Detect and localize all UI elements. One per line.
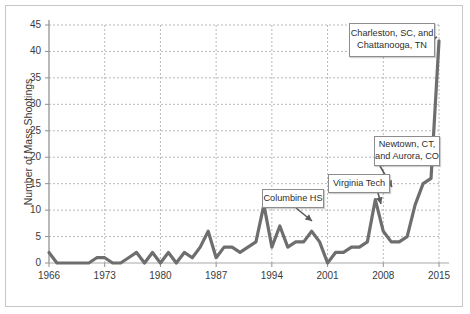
chart-frame: Number of Mass Shootings 051015202530354…	[5, 5, 463, 307]
annotation-label-line1: Charleston, SC, and	[351, 28, 434, 40]
annotation-virginia-tech: Virginia Tech	[328, 174, 390, 193]
annotation-label-line1: Virginia Tech	[333, 178, 385, 190]
annotation-label-line1: Columbine HS	[263, 193, 322, 205]
annotation-label-line2: and Aurora, CO	[375, 151, 439, 163]
chart-container: Number of Mass Shootings 051015202530354…	[0, 0, 470, 314]
annotation-columbine: Columbine HS	[262, 189, 324, 208]
annotation-label-line1: Newtown, CT,	[379, 139, 436, 151]
annotation-label-line2: Chattanooga, TN	[357, 40, 427, 52]
annotation-charleston: Charleston, SC, andChattanooga, TN	[349, 23, 435, 57]
annotation-newtown: Newtown, CT,and Aurora, CO	[374, 136, 440, 166]
